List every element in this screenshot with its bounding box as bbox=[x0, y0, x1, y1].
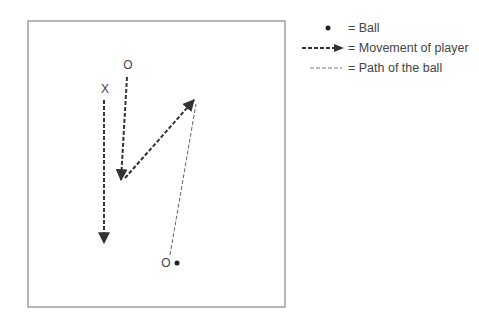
movement-arrow-o-cut bbox=[125, 100, 194, 178]
ball-icon bbox=[175, 261, 180, 266]
player-o-bottom: O bbox=[161, 256, 170, 270]
field-border bbox=[28, 21, 285, 307]
dashed-arrow-icon bbox=[300, 38, 346, 58]
thin-dashed-line-icon bbox=[300, 58, 346, 78]
player-o-top: O bbox=[123, 58, 132, 72]
movement-arrow-o-down bbox=[121, 77, 127, 180]
play-diagram: O X O bbox=[0, 0, 290, 322]
ball-path bbox=[170, 104, 196, 255]
player-x: X bbox=[101, 82, 109, 96]
ball-dot-icon bbox=[300, 18, 340, 38]
